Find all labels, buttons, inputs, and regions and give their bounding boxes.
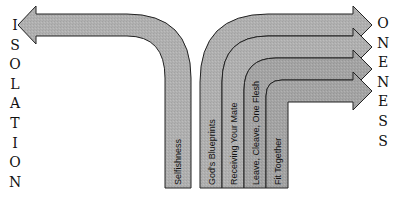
- oneness-word: O N E N E S S: [376, 14, 390, 151]
- letter: T: [10, 114, 19, 134]
- isolation-word: I S O L A T I O N: [8, 16, 22, 192]
- arrow-label-receiving-your-mate: Receiving Your Mate: [229, 102, 239, 185]
- letter: I: [12, 134, 18, 154]
- letter: N: [377, 34, 389, 54]
- arrow-label-fit-together: Fit Together: [273, 138, 283, 185]
- letter: S: [378, 132, 388, 152]
- arrow-label-gods-blueprints: God's Blueprints: [207, 119, 217, 185]
- letter: E: [378, 92, 388, 112]
- letter: N: [9, 173, 21, 193]
- letter: A: [10, 94, 20, 114]
- letter: N: [377, 73, 389, 93]
- arrow-leave-cleave-one-flesh: Leave, Cleave, One Flesh: [244, 50, 372, 188]
- letter: O: [9, 153, 20, 173]
- letter: E: [378, 53, 388, 73]
- arrow-selfishness: Selfishness: [18, 6, 191, 188]
- letter: O: [377, 14, 388, 34]
- arrow-fit-together: Fit Together: [266, 72, 372, 188]
- letter: L: [10, 75, 19, 95]
- arrow-label-leave-cleave-one-flesh: Leave, Cleave, One Flesh: [251, 81, 261, 185]
- letter: S: [10, 36, 20, 56]
- arrow-label-selfishness: Selfishness: [173, 138, 183, 185]
- letter: S: [378, 112, 388, 132]
- arrow-diagram: Selfishness God's Blueprints Receiving Y…: [0, 0, 393, 197]
- letter: I: [12, 16, 18, 36]
- letter: O: [9, 55, 20, 75]
